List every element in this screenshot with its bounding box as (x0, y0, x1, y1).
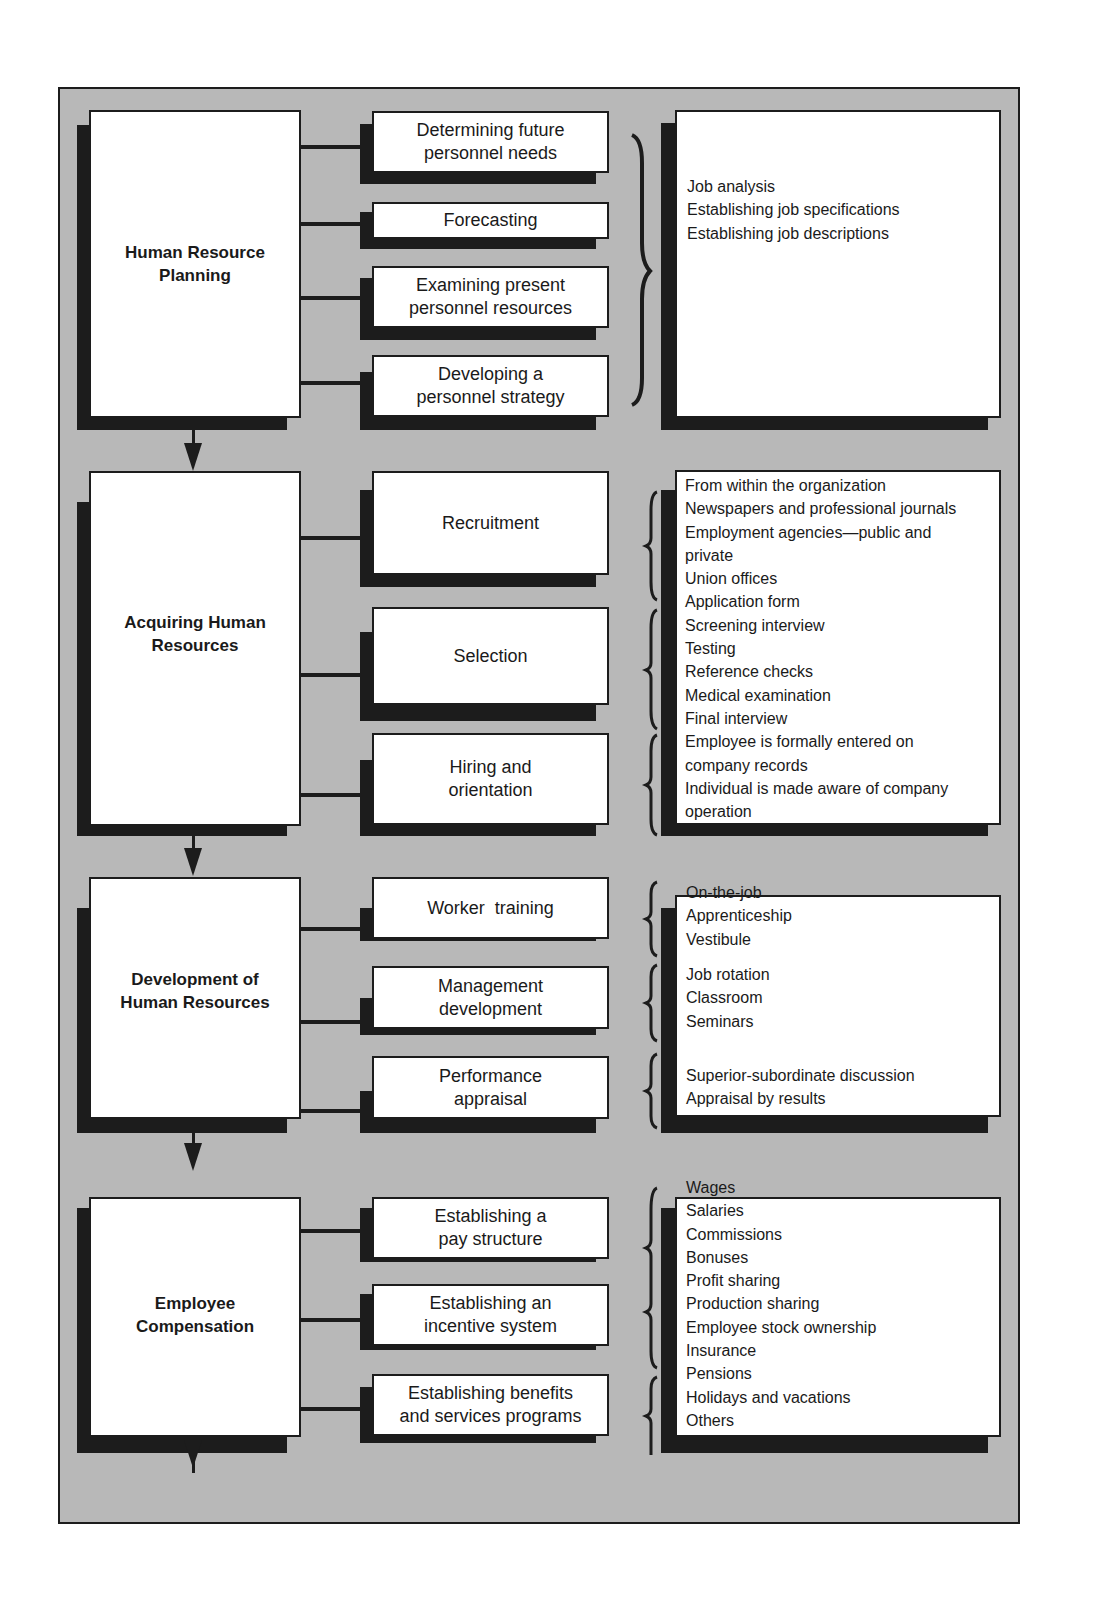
right-brace-icon (628, 133, 658, 408)
detail-item: Establishing job descriptions (687, 222, 900, 245)
activity-box: Establishing benefits and services progr… (372, 1374, 609, 1436)
detail-item: Pensions (686, 1362, 876, 1385)
activity-box: Establishing an incentive system (372, 1284, 609, 1346)
detail-item: Screening interview (685, 614, 956, 637)
details-list: Wages Salaries Commissions Bonuses Profi… (686, 1176, 876, 1432)
detail-item: On-the-job (686, 881, 792, 904)
detail-item: Salaries (686, 1199, 876, 1222)
activity-box: Hiring and orientation (372, 733, 609, 825)
detail-item: Medical examination (685, 684, 956, 707)
activity-box: Selection (372, 607, 609, 705)
activity-box: Establishing a pay structure (372, 1197, 609, 1259)
detail-item: Individual is made aware of company (685, 777, 956, 800)
detail-item: Wages (686, 1176, 876, 1199)
detail-item: Others (686, 1409, 876, 1432)
detail-item: Commissions (686, 1223, 876, 1246)
activity-box: Determining future personnel needs (372, 111, 609, 173)
details-list: From within the organization Newspapers … (685, 474, 956, 823)
detail-item: Employment agencies—public and (685, 521, 956, 544)
main-box-label: Acquiring Human Resources (124, 611, 266, 657)
detail-item: Appraisal by results (686, 1087, 915, 1110)
down-arrow-icon (184, 1143, 202, 1171)
detail-item: Newspapers and professional journals (685, 497, 956, 520)
detail-item: Apprenticeship (686, 904, 792, 927)
detail-item: Job analysis (687, 175, 900, 198)
detail-item: Employee stock ownership (686, 1316, 876, 1339)
down-arrow-icon (184, 848, 202, 876)
detail-item: Union offices (685, 567, 956, 590)
main-box-hr-planning: Human Resource Planning (89, 110, 301, 418)
activity-box: Management development (372, 966, 609, 1029)
main-box-development-hr: Development of Human Resources (89, 877, 301, 1119)
detail-item: Employee is formally entered on (685, 730, 956, 753)
detail-item: Reference checks (685, 660, 956, 683)
detail-item: Superior-subordinate discussion (686, 1064, 915, 1087)
main-box-label: Development of Human Resources (120, 968, 269, 1014)
detail-item: private (685, 544, 956, 567)
main-box-label: Employee Compensation (136, 1292, 254, 1338)
detail-item: Insurance (686, 1339, 876, 1362)
details-list: Job analysis Establishing job specificat… (687, 175, 900, 245)
activity-box: Examining present personnel resources (372, 266, 609, 328)
detail-item: From within the organization (685, 474, 956, 497)
detail-item: Job rotation (686, 963, 770, 986)
detail-item: Application form (685, 590, 956, 613)
main-box-acquiring-hr: Acquiring Human Resources (89, 471, 301, 826)
detail-item: Holidays and vacations (686, 1386, 876, 1409)
down-arrow-icon (184, 1440, 202, 1468)
detail-item: operation (685, 800, 956, 823)
detail-item: Testing (685, 637, 956, 660)
detail-item: company records (685, 754, 956, 777)
activity-box: Performance appraisal (372, 1056, 609, 1119)
detail-item: Production sharing (686, 1292, 876, 1315)
details-list-management: Job rotation Classroom Seminars (686, 963, 770, 1033)
detail-item: Profit sharing (686, 1269, 876, 1292)
down-arrow-icon (184, 443, 202, 471)
activity-box: Worker training (372, 877, 609, 939)
detail-item: Establishing job specifications (687, 198, 900, 221)
detail-item: Vestibule (686, 928, 792, 951)
details-list-training: On-the-job Apprenticeship Vestibule (686, 881, 792, 951)
main-box-label: Human Resource Planning (125, 241, 265, 287)
details-box (675, 110, 1001, 418)
detail-item: Final interview (685, 707, 956, 730)
detail-item: Classroom (686, 986, 770, 1009)
details-list-appraisal: Superior-subordinate discussion Appraisa… (686, 1064, 915, 1111)
activity-box: Developing a personnel strategy (372, 355, 609, 417)
detail-item: Bonuses (686, 1246, 876, 1269)
activity-box: Recruitment (372, 471, 609, 575)
main-box-employee-compensation: Employee Compensation (89, 1197, 301, 1437)
detail-item: Seminars (686, 1010, 770, 1033)
activity-box: Forecasting (372, 202, 609, 239)
